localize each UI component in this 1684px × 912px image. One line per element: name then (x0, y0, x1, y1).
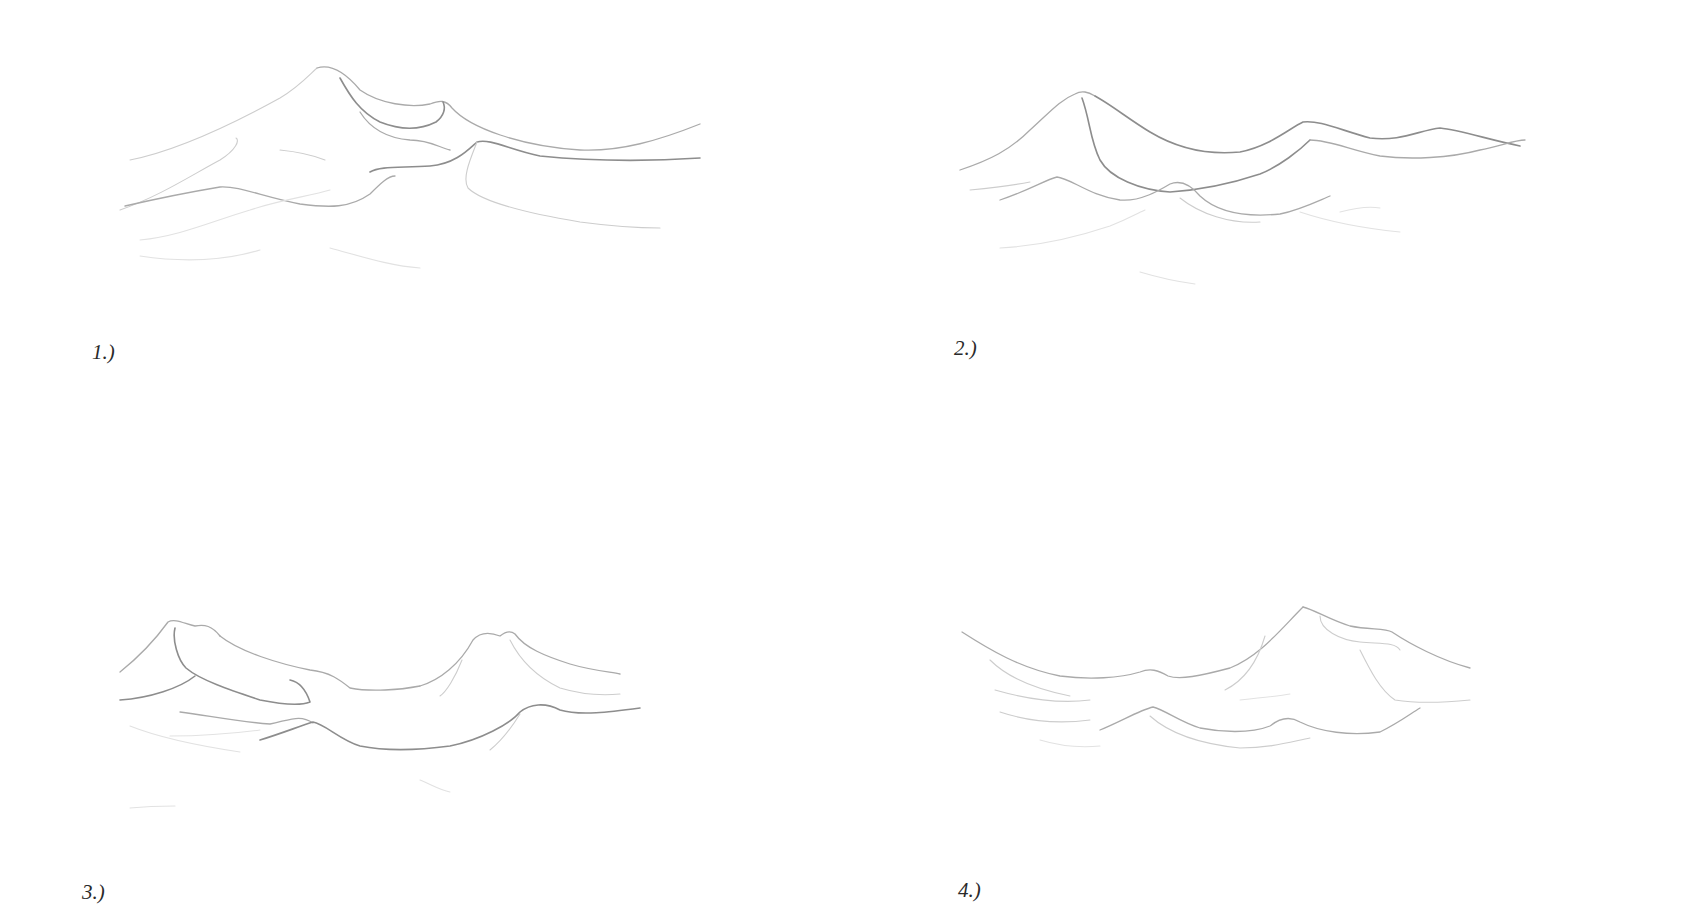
mountain-sketch-1 (0, 0, 842, 456)
step-label-2: 2.) (954, 336, 977, 361)
mountain-sketch-3 (0, 456, 842, 912)
sketch-panel-2: 2.) (842, 0, 1684, 456)
sketch-panel-4: 4.) (842, 456, 1684, 912)
step-label-4: 4.) (958, 878, 981, 903)
step-label-1: 1.) (92, 340, 115, 365)
mountain-sketch-4 (842, 456, 1684, 912)
sketch-panel-3: 3.) (0, 456, 842, 912)
sketch-panel-1: 1.) (0, 0, 842, 456)
step-label-3: 3.) (82, 880, 105, 905)
mountain-sketch-2 (842, 0, 1684, 456)
